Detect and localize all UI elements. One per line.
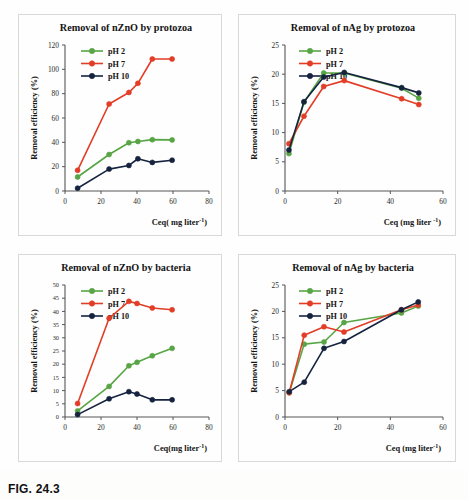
x-tick-label: 20 xyxy=(97,423,105,432)
legend-label: pH 2 xyxy=(326,287,343,296)
x-tick-label: 60 xyxy=(439,423,447,432)
legend-item-ph-2: pH 2 xyxy=(81,287,125,296)
data-point xyxy=(126,389,131,394)
data-point xyxy=(75,175,80,180)
legend-swatch-marker xyxy=(307,301,312,306)
legend-item-ph-10: pH 10 xyxy=(81,72,129,81)
x-axis-label: Ceq(mg liter-1) xyxy=(154,443,207,453)
data-point xyxy=(75,412,80,417)
y-tick-label: 45 xyxy=(53,294,59,301)
legend-swatch-marker xyxy=(89,61,94,66)
chart-title: Removal of nZnO by bacteria xyxy=(61,262,191,273)
series-line-ph-2 xyxy=(289,73,419,154)
data-point xyxy=(342,78,347,83)
y-tick-label: 10 xyxy=(272,360,280,369)
panel-border-nzno-bacteria: Removal of nZnO by bacteria0510152025303… xyxy=(18,254,222,462)
data-point xyxy=(135,81,140,86)
x-tick-label: 20 xyxy=(334,197,342,206)
data-point xyxy=(126,299,131,304)
data-point xyxy=(75,168,80,173)
data-point xyxy=(126,363,131,368)
data-point xyxy=(301,99,306,104)
legend-item-ph-7: pH 7 xyxy=(299,60,343,69)
panel-grid: Removal of nZnO by protozoa0204060801001… xyxy=(0,0,468,470)
y-tick-label: 40 xyxy=(53,308,59,315)
legend-item-ph-7: pH 7 xyxy=(81,300,125,309)
data-point xyxy=(135,139,140,144)
data-point xyxy=(150,160,155,165)
data-point xyxy=(126,90,131,95)
x-tick-label: 60 xyxy=(169,423,177,432)
y-tick-label: 20 xyxy=(272,70,280,79)
x-tick-label: 0 xyxy=(283,423,287,432)
data-point xyxy=(150,137,155,142)
y-tick-label: 80 xyxy=(52,89,60,98)
data-point xyxy=(170,397,175,402)
data-point xyxy=(126,140,131,145)
legend-swatch-marker xyxy=(89,288,94,293)
data-point xyxy=(170,56,175,61)
data-point xyxy=(321,75,326,80)
data-point xyxy=(135,360,140,365)
data-point xyxy=(416,102,421,107)
legend-item-ph-2: pH 2 xyxy=(299,287,343,296)
x-axis-label: Ceq (mg liter -1) xyxy=(384,217,441,227)
x-tick-label: 40 xyxy=(387,197,395,206)
series-line-ph-2 xyxy=(78,140,173,177)
legend-label: pH 2 xyxy=(326,47,343,56)
series-line-ph-2 xyxy=(289,306,418,393)
legend-label: pH 10 xyxy=(326,312,347,321)
y-tick-label: 25 xyxy=(53,347,59,354)
data-point xyxy=(107,316,112,321)
x-tick-label: 40 xyxy=(387,423,395,432)
legend-item-ph-2: pH 2 xyxy=(299,47,343,56)
legend-label: pH 10 xyxy=(108,72,129,81)
legend-item-ph-7: pH 7 xyxy=(299,300,343,309)
legend-swatch-marker xyxy=(89,73,94,78)
y-tick-label: 0 xyxy=(275,413,279,422)
y-tick-label: 15 xyxy=(53,374,59,381)
data-point xyxy=(126,163,131,168)
y-tick-label: 25 xyxy=(272,281,280,290)
data-point xyxy=(321,340,326,345)
series-line-ph-10 xyxy=(78,159,173,188)
data-point xyxy=(321,84,326,89)
x-axis-label: Ceq (mg liter-1) xyxy=(386,443,441,453)
x-tick-label: 40 xyxy=(133,197,141,206)
chart-title: Removal of nZnO by protozoa xyxy=(60,22,192,33)
legend-swatch-marker xyxy=(307,288,312,293)
figure-caption: FIG. 24.3 xyxy=(8,482,60,496)
data-point xyxy=(302,380,307,385)
data-point xyxy=(286,148,291,153)
data-point xyxy=(416,90,421,95)
y-tick-label: 10 xyxy=(53,387,59,394)
data-point xyxy=(321,324,326,329)
y-axis-label: Removal efficiency (%) xyxy=(250,309,259,393)
panel-border-nag-bacteria: Removal of nAg by bacteria05101520250204… xyxy=(238,254,456,462)
y-axis-label: Removal efficiency (%) xyxy=(30,309,39,393)
y-tick-label: 50 xyxy=(53,281,59,288)
y-tick-label: 40 xyxy=(52,138,60,147)
chart-nag-bacteria: Removal of nAg by bacteria05101520250204… xyxy=(239,255,455,461)
chart-content: Removal of nAg by protozoa05101520250204… xyxy=(250,22,447,227)
x-tick-label: 20 xyxy=(334,423,342,432)
y-tick-label: 20 xyxy=(272,307,280,316)
legend-item-ph-10: pH 10 xyxy=(299,312,347,321)
y-axis-label: Removal efficiency (%) xyxy=(250,76,259,160)
x-tick-label: 80 xyxy=(205,423,213,432)
data-point xyxy=(107,167,112,172)
legend-item-ph-2: pH 2 xyxy=(81,47,125,56)
data-point xyxy=(341,329,346,334)
data-point xyxy=(135,392,140,397)
legend-label: pH 7 xyxy=(326,60,343,69)
chart-nag-protozoa: Removal of nAg by protozoa05101520250204… xyxy=(239,15,455,235)
y-tick-label: 0 xyxy=(56,413,59,420)
data-point xyxy=(341,320,346,325)
x-tick-label: 20 xyxy=(97,197,105,206)
data-point xyxy=(107,384,112,389)
legend-label: pH 2 xyxy=(108,287,125,296)
panel-nzno-bacteria: Removal of nZnO by bacteria0510152025303… xyxy=(0,248,232,470)
legend-item-ph-10: pH 10 xyxy=(81,312,129,321)
y-tick-label: 100 xyxy=(48,65,59,74)
y-tick-label: 15 xyxy=(272,333,280,342)
